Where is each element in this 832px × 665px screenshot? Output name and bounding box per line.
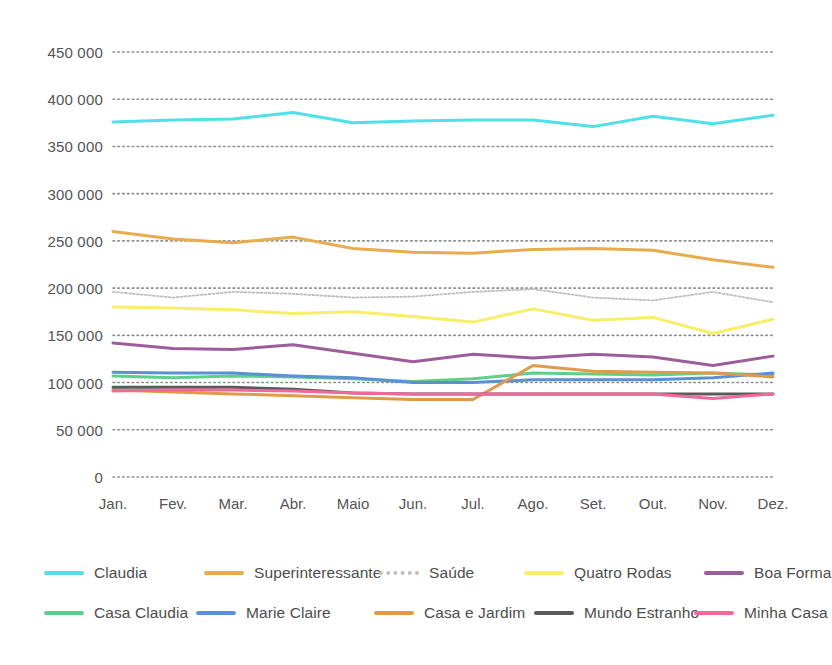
x-axis: Jan.Fev.Mar.Abr.MaioJun.Jul.Ago.Set.Out.… (113, 495, 773, 521)
x-tick-label: Abr. (280, 495, 307, 512)
legend-item-boa-forma[interactable]: Boa Forma (704, 564, 832, 582)
x-tick-label: Mar. (218, 495, 247, 512)
legend-swatch-icon (196, 611, 236, 615)
legend-row: ClaudiaSuperinteressanteSaúdeQuatro Roda… (44, 558, 774, 588)
legend-row: Casa ClaudiaMarie ClaireCasa e JardimMun… (44, 598, 774, 628)
x-tick-label: Dez. (758, 495, 789, 512)
legend-label: Boa Forma (754, 564, 832, 582)
x-tick-label: Nov. (698, 495, 728, 512)
legend-label: Mundo Estranho (584, 604, 699, 622)
legend-label: Casa e Jardim (424, 604, 525, 622)
legend-label: Claudia (94, 564, 147, 582)
legend-swatch-icon (379, 571, 419, 575)
legend-swatch-icon (704, 571, 744, 575)
legend-item-saúde[interactable]: Saúde (379, 564, 474, 582)
series-line-saúde (113, 289, 773, 302)
y-tick-label: 0 (0, 469, 103, 486)
legend-item-claudia[interactable]: Claudia (44, 564, 147, 582)
legend-label: Marie Claire (246, 604, 331, 622)
legend-swatch-icon (44, 611, 84, 615)
chart-legend: ClaudiaSuperinteressanteSaúdeQuatro Roda… (44, 552, 774, 638)
legend-swatch-icon (204, 571, 244, 575)
y-tick-label: 100 000 (0, 374, 103, 391)
legend-swatch-icon (694, 611, 734, 615)
legend-swatch-icon (524, 571, 564, 575)
series-line-boa-forma (113, 343, 773, 366)
legend-swatch-icon (374, 611, 414, 615)
x-tick-label: Jan. (99, 495, 127, 512)
y-tick-label: 400 000 (0, 91, 103, 108)
y-tick-label: 450 000 (0, 44, 103, 61)
x-tick-label: Jun. (399, 495, 427, 512)
legend-label: Quatro Rodas (574, 564, 672, 582)
x-tick-label: Set. (580, 495, 607, 512)
legend-item-minha-casa[interactable]: Minha Casa (694, 604, 828, 622)
y-axis: 450 000400 000350 000300 000250 000200 0… (0, 0, 103, 530)
legend-item-quatro-rodas[interactable]: Quatro Rodas (524, 564, 672, 582)
legend-swatch-icon (534, 611, 574, 615)
legend-item-marie-claire[interactable]: Marie Claire (196, 604, 331, 622)
y-tick-label: 300 000 (0, 185, 103, 202)
series-lines (113, 52, 773, 477)
legend-label: Minha Casa (744, 604, 828, 622)
y-tick-label: 150 000 (0, 327, 103, 344)
y-tick-label: 50 000 (0, 421, 103, 438)
legend-label: Casa Claudia (94, 604, 188, 622)
legend-item-casa-e-jardim[interactable]: Casa e Jardim (374, 604, 525, 622)
y-tick-label: 350 000 (0, 138, 103, 155)
legend-label: Saúde (429, 564, 474, 582)
legend-swatch-icon (44, 571, 84, 575)
x-tick-label: Jul. (461, 495, 484, 512)
series-line-quatro-rodas (113, 307, 773, 333)
x-tick-label: Fev. (159, 495, 187, 512)
x-tick-label: Maio (337, 495, 370, 512)
legend-label: Superinteressante (254, 564, 382, 582)
x-tick-label: Out. (639, 495, 667, 512)
y-tick-label: 200 000 (0, 280, 103, 297)
legend-item-superinteressante[interactable]: Superinteressante (204, 564, 382, 582)
series-line-claudia (113, 112, 773, 126)
legend-item-mundo-estranho[interactable]: Mundo Estranho (534, 604, 699, 622)
x-tick-label: Ago. (518, 495, 549, 512)
y-tick-label: 250 000 (0, 232, 103, 249)
series-line-superinteressante (113, 231, 773, 267)
legend-item-casa-claudia[interactable]: Casa Claudia (44, 604, 188, 622)
plot-area (113, 52, 773, 477)
